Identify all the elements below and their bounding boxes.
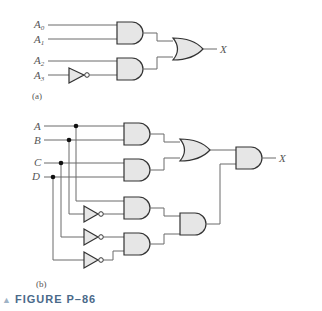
and-gate-cd <box>124 159 150 181</box>
and-gate-ab-not <box>124 197 150 219</box>
output-label-x-a: X <box>219 43 228 55</box>
and-gate-combine <box>180 213 206 235</box>
not-gate-b <box>84 206 98 222</box>
input-label-c: C <box>34 156 42 168</box>
input-label-a0: A0 <box>33 18 45 32</box>
figure-caption-text: FIGURE P–86 <box>15 293 96 305</box>
input-label-a: A <box>33 120 41 132</box>
not-gate-d <box>84 252 98 268</box>
triangle-icon: ▲ <box>2 295 12 305</box>
and-gate-a2 <box>117 58 143 80</box>
logic-diagram: A0 A1 A2 A3 X (a) A B C D <box>0 0 322 311</box>
circuit-b: A B C D <box>31 120 287 289</box>
figure-caption: ▲FIGURE P–86 <box>2 293 96 305</box>
input-label-d: D <box>31 170 40 182</box>
part-label-a: (a) <box>32 91 42 101</box>
circuit-a: A0 A1 A2 A3 X (a) <box>32 18 228 101</box>
input-label-a2: A2 <box>33 54 45 68</box>
and-gate-a1 <box>117 22 143 44</box>
or-gate-b <box>180 139 210 161</box>
input-label-a1: A1 <box>33 33 44 47</box>
not-gate-c <box>84 229 98 245</box>
not-gate-a3 <box>69 68 84 83</box>
part-label-b: (b) <box>36 279 47 289</box>
and-gate-ab <box>124 123 150 145</box>
and-gate-cd-not <box>124 233 150 255</box>
input-label-b: B <box>34 134 41 146</box>
or-gate-a <box>173 38 203 60</box>
and-gate-final <box>236 147 262 169</box>
input-label-a3: A3 <box>33 69 45 83</box>
output-label-x-b: X <box>278 152 287 164</box>
